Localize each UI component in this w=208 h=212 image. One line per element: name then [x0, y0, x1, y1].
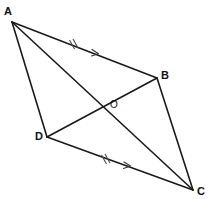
- geometry-figure: A B C D O: [0, 0, 208, 212]
- vertex-label-d: D: [35, 131, 43, 142]
- diagonal-bd: [47, 78, 157, 137]
- vertex-label-a: A: [4, 6, 12, 17]
- geometry-canvas: [0, 0, 208, 212]
- vertex-label-b: B: [161, 70, 169, 81]
- vertex-label-c: C: [197, 186, 205, 197]
- intersection-label-o: O: [110, 100, 118, 110]
- segment-dc: [47, 137, 193, 190]
- segment-ab: [12, 22, 157, 78]
